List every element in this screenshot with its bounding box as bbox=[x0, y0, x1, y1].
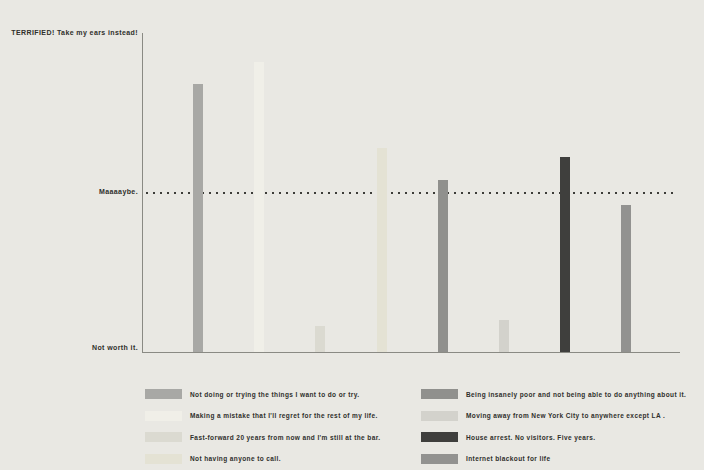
y-axis-label-not-worth-it: Not worth it. bbox=[0, 344, 138, 351]
legend-label: Being insanely poor and not being able t… bbox=[466, 391, 686, 398]
bar-5 bbox=[438, 180, 448, 352]
legend-swatch bbox=[421, 454, 458, 464]
legend-swatch bbox=[145, 411, 182, 421]
legend-label: Not having anyone to call. bbox=[190, 455, 281, 462]
fear-bar-chart: TERRIFIED! Take my ears instead! Maaaayb… bbox=[0, 0, 704, 470]
legend-item: Being insanely poor and not being able t… bbox=[421, 389, 686, 399]
legend-swatch bbox=[145, 389, 182, 399]
bar-2 bbox=[254, 62, 264, 352]
legend-swatch bbox=[421, 389, 458, 399]
legend: Not doing or trying the things I want to… bbox=[145, 389, 686, 464]
legend-label: Not doing or trying the things I want to… bbox=[190, 391, 359, 398]
bar-4 bbox=[377, 148, 387, 352]
bar-6 bbox=[499, 320, 509, 352]
legend-swatch bbox=[145, 432, 182, 442]
bar-1 bbox=[193, 84, 203, 352]
legend-item: Not doing or trying the things I want to… bbox=[145, 389, 421, 399]
y-axis-label-terrified: TERRIFIED! Take my ears instead! bbox=[0, 29, 138, 36]
bars-container bbox=[142, 33, 680, 352]
legend-swatch bbox=[145, 454, 182, 464]
plot-area bbox=[142, 33, 680, 352]
bar-8 bbox=[621, 205, 631, 352]
bar-3 bbox=[315, 326, 325, 352]
legend-label: Making a mistake that I'll regret for th… bbox=[190, 412, 378, 419]
legend-item: Not having anyone to call. bbox=[145, 454, 421, 464]
y-axis-label-maybe: Maaaaybe. bbox=[0, 188, 138, 195]
legend-column-right: Being insanely poor and not being able t… bbox=[421, 389, 686, 464]
bar-7 bbox=[560, 157, 570, 352]
legend-label: Fast-forward 20 years from now and I'm s… bbox=[190, 434, 380, 441]
legend-item: Moving away from New York City to anywhe… bbox=[421, 411, 686, 421]
legend-label: House arrest. No visitors. Five years. bbox=[466, 434, 595, 441]
legend-column-left: Not doing or trying the things I want to… bbox=[145, 389, 421, 464]
legend-item: Internet blackout for life bbox=[421, 454, 686, 464]
x-axis-line bbox=[142, 352, 680, 353]
legend-swatch bbox=[421, 432, 458, 442]
legend-item: Fast-forward 20 years from now and I'm s… bbox=[145, 432, 421, 442]
legend-item: House arrest. No visitors. Five years. bbox=[421, 432, 686, 442]
legend-label: Moving away from New York City to anywhe… bbox=[466, 412, 665, 419]
legend-item: Making a mistake that I'll regret for th… bbox=[145, 411, 421, 421]
legend-label: Internet blackout for life bbox=[466, 455, 550, 462]
legend-swatch bbox=[421, 411, 458, 421]
